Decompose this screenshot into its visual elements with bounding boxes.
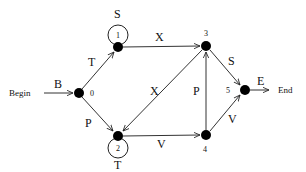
edge-1-3: X (123, 30, 200, 47)
edge-label-x-3-2: X (150, 84, 159, 98)
node-label-1: 1 (116, 31, 120, 40)
edge-label-s-loop: S (114, 7, 121, 21)
begin-label: Begin (9, 88, 31, 98)
edge-5-end: E (250, 74, 269, 90)
node-3: 3 (201, 29, 211, 51)
edge-4-3: P (193, 52, 206, 130)
edge-0-1: T (82, 52, 114, 89)
node-label-0: 0 (90, 89, 94, 98)
node-label-5: 5 (226, 86, 230, 95)
edge-label-p-4-3: P (193, 84, 200, 98)
edge-label-s-3-5: S (228, 54, 235, 68)
node-label-2: 2 (116, 144, 120, 153)
edge-label-p-0-2: P (85, 116, 92, 130)
end-label: End (278, 85, 293, 95)
node-1: 1 (113, 31, 123, 52)
edge-label-x-1-3: X (155, 30, 164, 44)
edge-0-2: P (82, 97, 113, 131)
node-5: 5 (226, 85, 250, 95)
edge-label-t-0-1: T (88, 55, 96, 69)
node-label-3: 3 (204, 29, 208, 38)
edge-label-v-4-5: V (228, 112, 237, 126)
edge-label-v-2-4: V (157, 137, 166, 151)
edge-2-4: V (123, 135, 200, 151)
node-label-4: 4 (203, 145, 207, 154)
node-2: 2 (113, 131, 123, 153)
edge-label-e: E (257, 74, 264, 88)
edge-3-5: S (210, 50, 240, 85)
state-diagram: B Begin T P S X T V X S P (0, 0, 306, 172)
edge-3-2: X (123, 50, 202, 131)
node-0: 0 (74, 88, 94, 98)
edge-4-5: V (210, 95, 240, 131)
node-4: 4 (201, 130, 211, 154)
edge-begin-0: B (44, 77, 73, 93)
edge-label-b: B (54, 77, 62, 91)
edge-label-t-loop: T (114, 158, 122, 172)
